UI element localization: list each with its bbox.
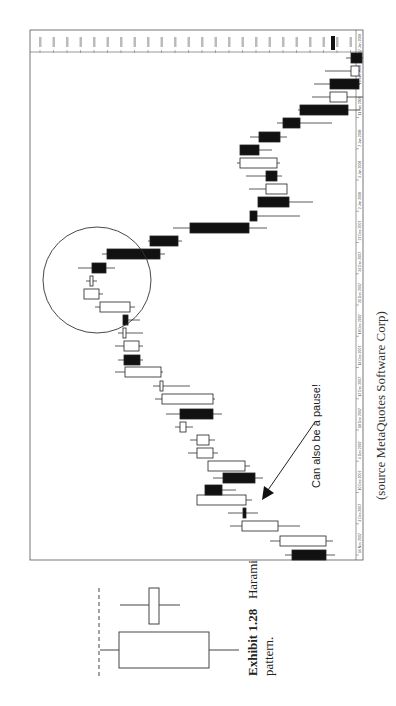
candlestick-chart: 16 Nov 20073 Dec 200710 Dec 20074 Dec 20… [0, 0, 396, 706]
candle [148, 236, 182, 246]
bullish-candle-body [240, 158, 277, 168]
bearish-candle-body [250, 211, 257, 221]
bearish-candle-body [266, 171, 277, 181]
bearish-candle-body [150, 236, 178, 246]
source-credit: (source MetaQuotes Software Corp) [373, 311, 389, 500]
bullish-candle-body [123, 328, 126, 338]
exhibit-title: Harami [245, 560, 260, 599]
bearish-candle-body [180, 409, 213, 419]
date-tick-label: 18 Dec 2007 [358, 408, 362, 428]
bullish-candle-body [100, 302, 130, 312]
bearish-candle-body [351, 53, 362, 63]
bearish-candle-body [243, 508, 246, 518]
bullish-candle-body [351, 66, 359, 76]
date-tick-label: 3 Dec 2007 [358, 504, 362, 522]
date-tick-label: 2 Jan 2008 [358, 192, 362, 209]
candle [155, 394, 215, 404]
annotation-text: Can also be a pause! [310, 384, 322, 488]
candle [237, 158, 280, 168]
bullish-candle-body [197, 495, 246, 505]
date-tick-label: 18 Dec 2007 [358, 314, 362, 334]
bearish-candle-body [92, 263, 106, 273]
bearish-candle-body [205, 485, 222, 495]
bullish-candle-body [266, 184, 287, 194]
date-tick-label: 7 Jan 2008 [358, 129, 362, 146]
date-tick-label: 17 Jan 2008 [358, 34, 362, 53]
candle [95, 302, 135, 312]
bullish-candle-body [84, 289, 99, 299]
bearish-candle-body [283, 118, 300, 128]
exhibit-caption: Exhibit 1.28 Harami pattern. [245, 560, 277, 676]
date-tick-label: 10 Dec 2007 [358, 471, 362, 491]
bullish-candle-body [197, 448, 213, 458]
bearish-candle-body [259, 132, 280, 142]
bearish-candle-body [107, 249, 160, 259]
date-tick-label: 12 Dec 2007 [358, 377, 362, 397]
exhibit-number: Exhibit 1.28 [245, 609, 260, 676]
date-tick-label: 14 Dec 2007 [358, 346, 362, 366]
exhibit-title-cont: pattern. [261, 637, 276, 676]
bearish-candle-body [240, 145, 259, 155]
bullish-candle-body [162, 394, 213, 404]
bullish-candle-body [124, 341, 139, 351]
bullish-candle-body [280, 536, 326, 546]
bearish-candle-body [223, 473, 255, 483]
candle [208, 461, 250, 471]
date-tick-label: 27 Dec 2007 [358, 221, 362, 241]
bullish-candle-body [208, 461, 245, 471]
date-tick-label: 4 Dec 2007 [358, 441, 362, 459]
bullish-candle-body [160, 381, 163, 391]
small-candle-body [149, 588, 159, 624]
bearish-candle-body [190, 223, 249, 233]
bearish-candle-body [124, 355, 140, 365]
bullish-candle-body [197, 435, 209, 445]
date-tick-label: 21 Dec 2007 [358, 283, 362, 303]
bullish-candle-body [180, 422, 186, 432]
bearish-candle-body [300, 105, 348, 115]
date-tick-label: 16 Nov 2007 [358, 533, 362, 553]
bullish-candle-body [242, 521, 278, 531]
date-tick-label: 24 Dec 2007 [358, 252, 362, 272]
date-tick-label: 11 Jan 2008 [358, 96, 362, 115]
large-candle-body [119, 632, 209, 668]
bearish-candle-body [330, 79, 359, 89]
bearish-candle-body [258, 197, 289, 207]
date-tick-label: 3 Jan 2008 [358, 161, 362, 178]
bullish-candle-body [330, 92, 347, 102]
bullish-candle-body [125, 367, 161, 377]
current-price-marker [331, 36, 335, 50]
candle [102, 249, 165, 259]
bullish-candle-body [90, 276, 93, 286]
candle [197, 495, 252, 505]
bearish-candle-body [292, 550, 326, 560]
harami-diagram [99, 588, 239, 676]
